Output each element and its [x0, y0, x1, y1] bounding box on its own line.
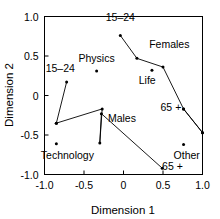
point-label: 65 +: [161, 101, 182, 113]
data-point: [162, 66, 165, 69]
data-point: [101, 107, 104, 110]
point-label: Males: [108, 112, 136, 124]
data-point: [55, 142, 58, 145]
scatter-plot: -1.0-0.500.51.0-1.0-0.500.51.0 15–24Fema…: [0, 0, 220, 219]
chart-figure: -1.0-0.500.51.0-1.0-0.500.51.0 15–24Fema…: [0, 0, 220, 219]
point-label: 15–24: [106, 11, 135, 23]
point-label: Life: [139, 74, 156, 86]
x-tick-label: -0.5: [75, 179, 93, 191]
y-tick-label: -0.5: [20, 129, 38, 141]
data-point: [55, 122, 58, 125]
data-point: [98, 141, 101, 144]
y-tick-label: 0: [33, 90, 39, 102]
x-tick-label: 0.5: [156, 179, 171, 191]
data-point: [95, 70, 98, 73]
data-point: [201, 131, 204, 134]
data-point: [135, 57, 138, 60]
point-label: Technology: [41, 149, 95, 161]
series-line-young-left: [56, 82, 66, 123]
y-tick-label: 0.5: [24, 50, 39, 62]
y-tick-label: -1.0: [20, 169, 38, 181]
y-axis-title: Dimension 2: [3, 63, 15, 127]
point-label: 15–24: [46, 62, 75, 74]
point-label: Females: [149, 38, 189, 50]
data-point: [119, 34, 122, 37]
series-line-females-tail: [184, 109, 203, 133]
data-point: [182, 143, 185, 146]
data-point: [100, 112, 103, 115]
x-axis-title: Dimension 1: [91, 204, 155, 216]
data-point: [182, 107, 185, 110]
x-tick-label: 0: [121, 179, 127, 191]
x-tick-label: 1.0: [195, 179, 210, 191]
data-point: [65, 81, 68, 84]
point-label: 65 +: [162, 160, 183, 172]
data-point: [150, 69, 153, 72]
point-label: Physics: [79, 52, 115, 64]
y-tick-label: 1.0: [24, 11, 39, 23]
